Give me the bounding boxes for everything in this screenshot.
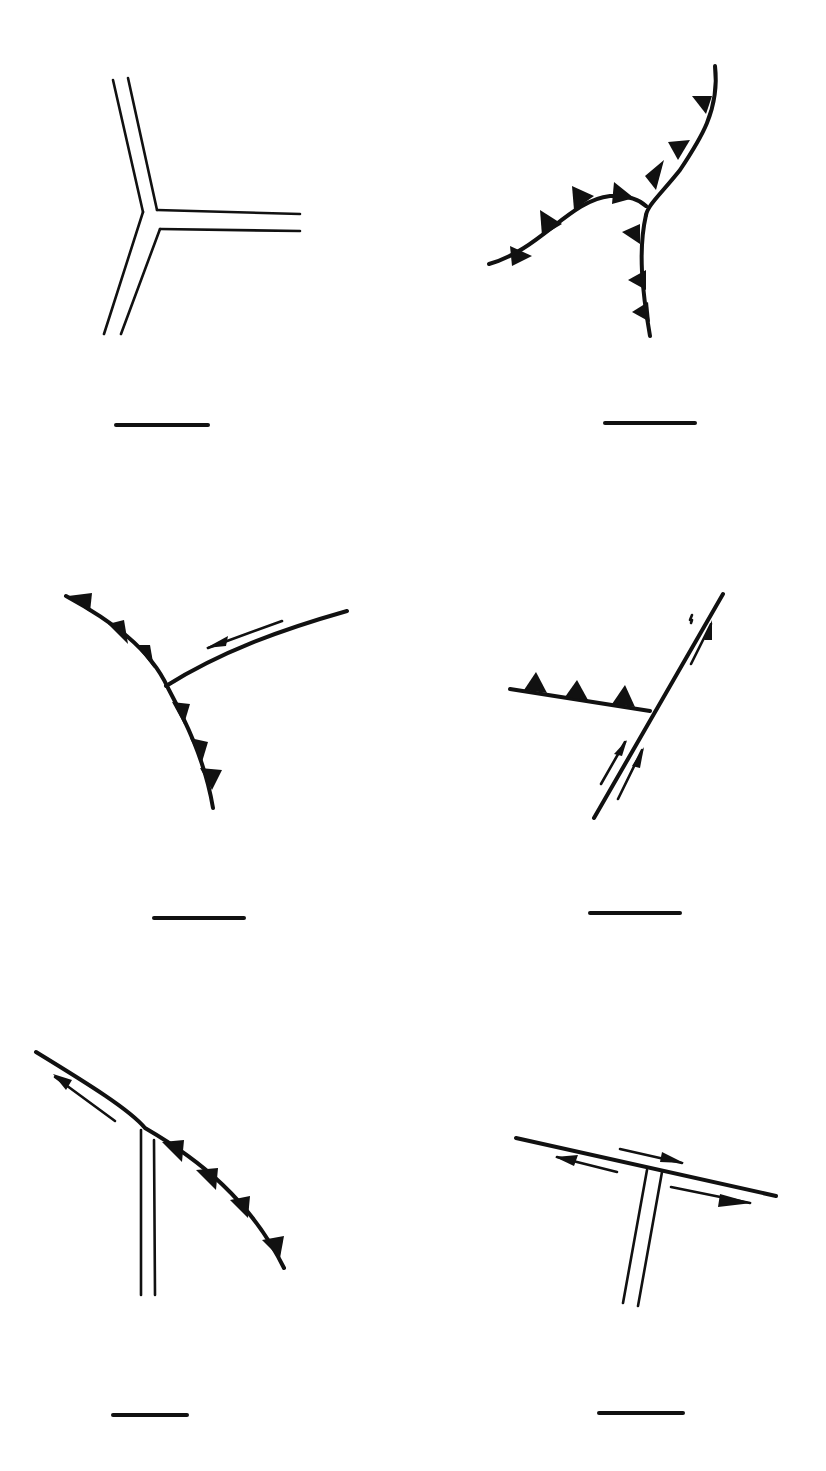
trench-northeast [646, 66, 716, 215]
trench-curve [66, 596, 213, 808]
slip-arrows-f [555, 1149, 752, 1207]
ridge-east [157, 210, 300, 231]
trench-teeth-b [510, 96, 712, 322]
arrowhead-icon [614, 740, 627, 756]
transform-trench-line-e [36, 1052, 284, 1268]
trench-teeth-e [162, 1140, 284, 1258]
panel-a-rrr-junction [104, 78, 300, 425]
panel-d-tff-junction [510, 594, 723, 913]
ridge-southwest [104, 212, 160, 334]
panel-b-ttt-junction [489, 66, 716, 423]
panel-c-ttf-junction [66, 593, 347, 918]
transform-fault-f [516, 1138, 776, 1196]
triple-junction-diagram [0, 0, 826, 1471]
panel-f-ffr-junction [516, 1138, 776, 1413]
ridge-south-e [141, 1130, 155, 1295]
arrowhead-icon [206, 636, 228, 648]
ridge-north [113, 78, 157, 212]
arrowhead-icon [660, 1152, 684, 1163]
panel-e-ftr-junction [36, 1052, 284, 1415]
ridge-south-f [623, 1170, 662, 1306]
arrowhead-icon [718, 1194, 752, 1207]
transform-fault-c [166, 611, 347, 686]
